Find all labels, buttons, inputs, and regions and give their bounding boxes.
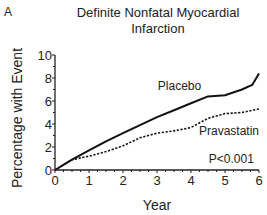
axes: 01234560246810	[38, 48, 263, 188]
x-tick-label: 1	[85, 173, 92, 188]
x-tick-label: 4	[187, 173, 194, 188]
p-value-annotation: P<0.001	[209, 152, 254, 166]
y-tick-label: 8	[45, 71, 52, 86]
y-axis-label: Percentage with Event	[9, 48, 25, 188]
x-tick-label: 2	[119, 173, 126, 188]
panel-label: A	[4, 5, 12, 19]
series-label-pravastatin: Pravastatin	[199, 124, 259, 138]
x-tick-label: 3	[153, 173, 160, 188]
y-tick-label: 0	[45, 163, 52, 178]
x-tick-label: 5	[221, 173, 228, 188]
chart-title-line-2: Infarction	[131, 21, 184, 36]
series-label-placebo: Placebo	[158, 79, 202, 93]
y-tick-label: 10	[38, 48, 52, 63]
y-tick-label: 6	[45, 94, 52, 109]
y-tick-label: 2	[45, 140, 52, 155]
chart-title-line-1: Definite Nonfatal Myocardial	[77, 5, 240, 20]
chart: A Definite Nonfatal Myocardial Infarctio…	[0, 0, 267, 215]
x-tick-label: 0	[51, 173, 58, 188]
x-axis-label: Year	[143, 197, 172, 213]
x-tick-label: 6	[255, 173, 262, 188]
series-labels: PlaceboPravastatinP<0.001	[158, 79, 259, 166]
y-tick-label: 4	[45, 117, 52, 132]
